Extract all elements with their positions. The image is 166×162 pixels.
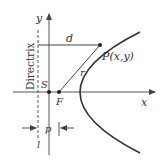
point-p-label: P(x,y): [101, 50, 134, 63]
vertex-point: [47, 90, 51, 94]
vertex-label: S: [41, 79, 48, 90]
point-p: [98, 43, 102, 47]
focus-label: F: [55, 96, 64, 107]
diagram-canvas: y x d P(x,y) r S F p l Directrix: [0, 0, 166, 162]
focus-point: [57, 90, 61, 94]
parabola-diagram: y x d P(x,y) r S F p l Directrix: [0, 0, 166, 162]
p-label: p: [45, 123, 52, 134]
x-axis-label: x: [141, 96, 148, 109]
d-label: d: [66, 32, 73, 45]
l-label: l: [37, 139, 40, 150]
directrix-label: Directrix: [24, 43, 36, 90]
r-label: r: [80, 67, 86, 78]
y-axis-label: y: [35, 12, 43, 25]
